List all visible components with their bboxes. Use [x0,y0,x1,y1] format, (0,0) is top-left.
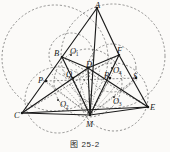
point-dot-P [45,80,48,83]
point-label-M: M [86,120,93,129]
point-dot-E [147,106,150,109]
point-label-O3: O3 [113,97,122,106]
geometry-figure: ABFCEMDPQRSO1O2O3O4 图 25-2 [0,0,170,152]
figure-caption: 图 25-2 [0,138,170,149]
segment-P-S [46,78,136,81]
point-label-S: S [133,72,137,81]
point-label-B: B [54,49,59,58]
solid-segments-layer [22,8,148,115]
point-label-C: C [14,111,20,120]
segment-F-E [119,55,148,107]
point-label-E: E [150,103,155,112]
segment-B-C [22,57,62,113]
point-label-O1: O1 [70,47,79,56]
point-dot-O2 [57,99,59,101]
point-dot-C [21,112,24,115]
point-dot-M [89,114,92,117]
geometry-canvas [0,0,170,152]
segment-A-B [62,8,97,57]
point-label-P: P [38,76,43,85]
point-label-F: F [117,46,122,55]
segment-C-M [22,113,90,115]
point-label-O2: O2 [60,100,69,109]
point-label-R: R [104,71,109,80]
circle-large-left [2,5,108,111]
segment-A-F [97,8,119,55]
point-label-O4: O4 [113,66,122,75]
point-dot-B [61,56,64,59]
dashed-segments-layer [22,55,148,115]
point-label-D: D [86,60,92,69]
point-label-Q: Q [66,70,72,79]
point-label-A: A [95,1,100,10]
